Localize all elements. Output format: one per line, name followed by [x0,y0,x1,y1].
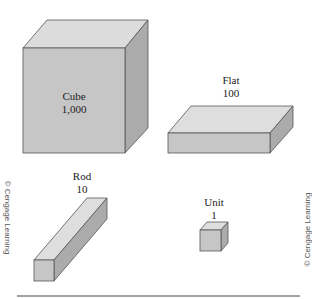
cube-label: Cube 1,000 [44,90,104,116]
base-ten-blocks-diagram [0,0,312,299]
rod-block [34,198,107,281]
flat-value: 100 [201,87,261,100]
unit-block [200,222,228,251]
unit-label: Unit 1 [184,196,244,222]
rod-name: Rod [52,170,112,183]
copyright-credit-left: © Cengage Learning [3,173,12,263]
flat-name: Flat [201,74,261,87]
unit-value: 1 [184,209,244,222]
cube-block [23,20,148,153]
copyright-credit-right: © Cengage Learning [303,185,312,275]
rod-value: 10 [52,183,112,196]
cube-value: 1,000 [44,103,104,116]
flat-block [168,106,293,153]
flat-label: Flat 100 [201,74,261,100]
unit-name: Unit [184,196,244,209]
cube-name: Cube [44,90,104,103]
rod-label: Rod 10 [52,170,112,196]
